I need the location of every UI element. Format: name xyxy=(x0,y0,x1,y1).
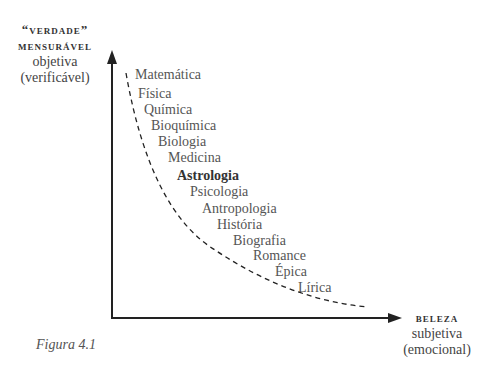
list-item: Matemática xyxy=(135,67,201,83)
list-item: Física xyxy=(138,86,171,102)
list-item: Antropologia xyxy=(202,201,277,217)
x-axis-title: beleza xyxy=(400,310,474,326)
list-item: Biografia xyxy=(233,233,286,249)
list-item: Lírica xyxy=(298,280,331,296)
figure-caption: Figura 4.1 xyxy=(36,337,96,353)
list-item: Biologia xyxy=(158,134,206,150)
x-axis-label: beleza subjetiva (emocional) xyxy=(400,310,474,358)
list-item: História xyxy=(217,217,262,233)
list-item: Romance xyxy=(253,248,306,264)
y-axis-title-line2: mensurável xyxy=(8,38,102,54)
y-axis-title-line1: “verdade” xyxy=(8,22,102,38)
list-item: Medicina xyxy=(168,150,221,166)
x-axis-subtitle: subjetiva xyxy=(400,326,474,342)
list-item: Psicologia xyxy=(190,184,248,200)
x-axis-note: (emocional) xyxy=(400,342,474,358)
list-item-highlighted: Astrologia xyxy=(177,168,239,184)
y-axis-label: “verdade” mensurável objetiva (verificáv… xyxy=(8,22,102,86)
list-item: Bioquímica xyxy=(151,118,216,134)
list-item: Épica xyxy=(275,264,307,280)
list-item: Química xyxy=(144,102,192,118)
y-axis-subtitle: objetiva xyxy=(8,54,102,70)
y-axis-note: (verificável) xyxy=(8,70,102,86)
